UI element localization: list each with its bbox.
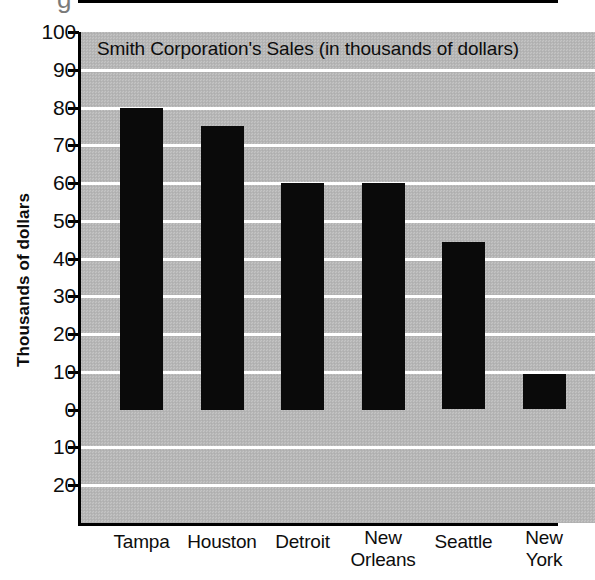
zero-baseline	[78, 0, 558, 3]
bar	[120, 108, 163, 410]
x-axis-label: NewYork	[484, 527, 595, 571]
y-axis-tick-label: 10	[16, 436, 76, 457]
plot-area	[78, 32, 595, 523]
cropped-glyph-artifact: g	[57, 0, 71, 15]
plot-bottom-rule	[78, 523, 558, 526]
gridline	[78, 69, 595, 72]
x-axis-label-line: New	[484, 527, 595, 549]
y-axis-tick-label: 80	[16, 97, 76, 118]
bar	[281, 183, 324, 410]
y-axis-tick-label: 70	[16, 134, 76, 155]
bar	[362, 183, 405, 410]
chart-title: Smith Corporation's Sales (in thousands …	[97, 38, 519, 60]
y-axis-title: Thousands of dollars	[14, 170, 34, 390]
gridline	[78, 446, 595, 449]
x-axis-label-line: York	[484, 549, 595, 571]
gridline	[78, 484, 595, 487]
y-axis-tick-label: 0	[16, 399, 76, 420]
bar	[523, 374, 566, 410]
y-axis-tick-label: 90	[16, 59, 76, 80]
bar-chart-figure: g 10090807060504030201001020 Thousands o…	[0, 0, 595, 580]
y-axis-tick-label: 100	[16, 21, 76, 42]
bar	[442, 242, 485, 410]
y-axis-tick-label: 20	[16, 474, 76, 495]
bar	[201, 126, 244, 409]
